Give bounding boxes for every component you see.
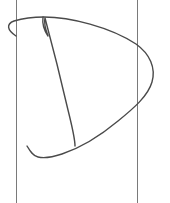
d-stem-stroke [43, 17, 75, 146]
sketch-canvas [0, 0, 170, 203]
letter-d-sketch [0, 0, 170, 203]
d-bowl-stroke [9, 17, 154, 158]
